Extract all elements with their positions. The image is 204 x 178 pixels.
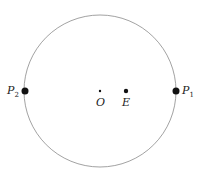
label-o: O bbox=[96, 96, 105, 109]
label-p1: P1 bbox=[181, 84, 194, 99]
point-p1 bbox=[173, 88, 180, 95]
label-p2: P2 bbox=[6, 84, 19, 99]
point-e bbox=[124, 89, 128, 93]
point-p2 bbox=[22, 88, 29, 95]
label-e: E bbox=[121, 96, 130, 109]
diagram-canvas: P2 O E P1 bbox=[0, 0, 204, 178]
point-o bbox=[99, 90, 101, 92]
